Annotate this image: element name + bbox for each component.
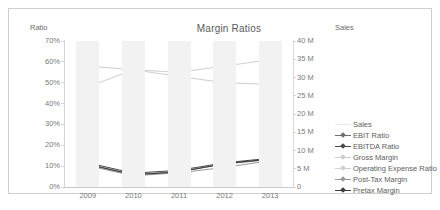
category-axis-line	[64, 187, 294, 188]
left-tick-label: 20%	[26, 140, 60, 149]
category-tick-label: 2012	[205, 191, 245, 200]
right-tick-label: 20 M	[297, 109, 333, 118]
tick-mark	[293, 187, 296, 188]
left-axis-title: Ratio	[30, 23, 48, 32]
left-tick-label: 60%	[26, 57, 60, 66]
category-band	[122, 41, 145, 187]
left-tick-label: 30%	[26, 119, 60, 128]
legend-item[interactable]: Pretax Margin	[335, 185, 439, 196]
legend-item-label: EBIT Ratio	[353, 131, 389, 140]
right-tick-label: 5 M	[297, 164, 333, 173]
left-tick-label: 10%	[26, 161, 60, 170]
left-tick-label: 40%	[26, 99, 60, 108]
left-tick-label: 70%	[26, 36, 60, 45]
tick-mark	[61, 82, 64, 83]
legend-marker-icon	[335, 153, 351, 162]
right-tick-label: 10 M	[297, 146, 333, 155]
legend-item-label: Gross Margin	[353, 153, 398, 162]
legend-diamond-icon	[340, 187, 346, 193]
category-tick-label: 2013	[250, 191, 290, 200]
legend-diamond-icon	[340, 165, 346, 171]
left-tick-label: 0%	[26, 182, 60, 191]
right-tick-label: 30 M	[297, 73, 333, 82]
legend-marker-icon	[335, 120, 351, 129]
right-axis-title: Sales	[335, 23, 354, 32]
category-band	[76, 41, 99, 187]
tick-mark	[61, 61, 64, 62]
chart-screenshot: Margin Ratios Ratio Sales 70%60%50%40%30…	[0, 0, 440, 210]
left-tick-label: 50%	[26, 78, 60, 87]
legend-marker-icon	[335, 142, 351, 151]
category-band	[213, 41, 236, 187]
right-tick-label: 40 M	[297, 36, 333, 45]
tick-mark	[293, 77, 296, 78]
legend-marker-icon	[335, 186, 351, 195]
legend-marker-icon	[335, 164, 351, 173]
legend-item[interactable]: EBITDA Ratio	[335, 141, 439, 152]
tick-mark	[293, 59, 296, 60]
category-tick-label: 2010	[113, 191, 153, 200]
tick-mark	[293, 41, 296, 42]
tick-mark	[293, 114, 296, 115]
legend-diamond-icon	[340, 132, 346, 138]
legend-item-label: Sales	[353, 120, 372, 129]
legend-line	[335, 124, 351, 125]
legend-diamond-icon	[340, 154, 346, 160]
tick-mark	[61, 103, 64, 104]
tick-mark	[293, 168, 296, 169]
legend-item[interactable]: Gross Margin	[335, 152, 439, 163]
tick-mark	[293, 150, 296, 151]
left-axis-line	[64, 40, 65, 188]
tick-mark	[61, 187, 64, 188]
chart-title: Margin Ratios	[129, 23, 329, 34]
legend-item[interactable]: Sales	[335, 119, 439, 130]
plot-area[interactable]	[65, 41, 293, 187]
tick-mark	[61, 166, 64, 167]
legend-item[interactable]: EBIT Ratio	[335, 130, 439, 141]
legend-item[interactable]: Post-Tax Margin	[335, 174, 439, 185]
right-tick-label: 35 M	[297, 54, 333, 63]
category-band	[259, 41, 282, 187]
right-tick-label: 0	[297, 182, 333, 191]
legend-item-label: Operating Expense Ratio	[353, 164, 437, 173]
legend-marker-icon	[335, 175, 351, 184]
tick-mark	[61, 41, 64, 42]
tick-mark	[293, 95, 296, 96]
legend-diamond-icon	[340, 176, 346, 182]
category-tick-label: 2009	[68, 191, 108, 200]
legend-item-label: Post-Tax Margin	[353, 175, 407, 184]
tick-mark	[293, 132, 296, 133]
chart-legend[interactable]: SalesEBIT RatioEBITDA RatioGross MarginO…	[335, 119, 439, 196]
tick-mark	[61, 145, 64, 146]
category-band	[168, 41, 191, 187]
right-tick-label: 25 M	[297, 91, 333, 100]
legend-marker-icon	[335, 131, 351, 140]
legend-item[interactable]: Operating Expense Ratio	[335, 163, 439, 174]
tick-mark	[61, 124, 64, 125]
category-tick-label: 2011	[159, 191, 199, 200]
legend-item-label: Pretax Margin	[353, 186, 400, 195]
legend-diamond-icon	[340, 143, 346, 149]
chart-frame[interactable]: Margin Ratios Ratio Sales 70%60%50%40%30…	[8, 8, 432, 194]
legend-item-label: EBITDA Ratio	[353, 142, 399, 151]
right-tick-label: 15 M	[297, 127, 333, 136]
